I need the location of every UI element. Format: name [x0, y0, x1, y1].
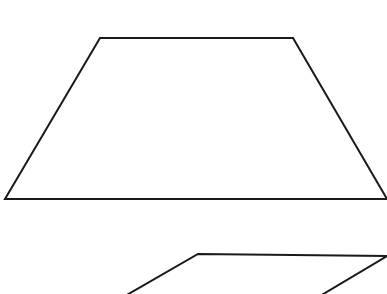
trapezoid-shape — [5, 38, 387, 199]
parallelogram-shape — [125, 254, 387, 294]
diagram-canvas — [0, 0, 387, 294]
